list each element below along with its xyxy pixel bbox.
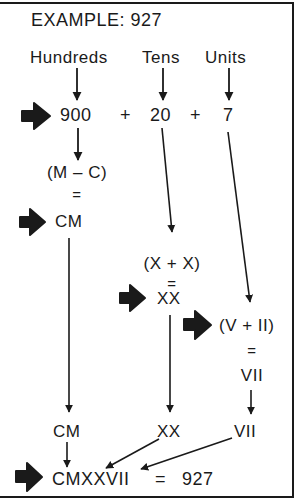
column-label-units: Units (205, 49, 246, 66)
tens-expression: (X + X) (144, 255, 201, 272)
collected-tens: XX (157, 423, 181, 440)
column-label-hundreds: Hundreds (30, 49, 108, 66)
fat-right-arrow-icon (16, 463, 42, 491)
collected-units: VII (234, 423, 256, 440)
plus-sign: + (120, 106, 131, 124)
final-equals: = (155, 470, 166, 488)
collected-hundreds: CM (53, 423, 80, 440)
hundreds-result: CM (55, 213, 82, 230)
fat-right-arrow-icon (184, 311, 211, 339)
equals-sign: = (247, 343, 256, 358)
tens-value: 20 (150, 106, 171, 124)
units-expression: (V + II) (219, 317, 274, 334)
down-arrow-icon (228, 132, 250, 302)
units-value: 7 (223, 106, 234, 124)
equals-sign: = (72, 187, 81, 202)
hundreds-expression: (M – C) (47, 164, 107, 181)
plus-sign: + (190, 106, 201, 124)
example-title: EXAMPLE: 927 (31, 11, 162, 29)
hundreds-value: 900 (60, 106, 92, 124)
fat-right-arrow-icon (120, 285, 145, 311)
tens-result: XX (157, 290, 181, 307)
fat-right-arrow-icon (20, 209, 45, 235)
final-value: 927 (182, 470, 214, 488)
diagonal-arrow-icon (106, 439, 159, 468)
diagonal-arrow-icon (141, 438, 232, 469)
fat-right-arrow-icon (22, 103, 50, 129)
final-numeral: CMXXVII (52, 470, 130, 488)
down-arrow-icon (162, 128, 172, 232)
units-result: VII (241, 367, 263, 384)
column-label-tens: Tens (142, 49, 180, 66)
